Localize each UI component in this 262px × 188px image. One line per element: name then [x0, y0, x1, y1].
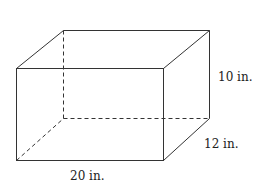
bottom-right-depth-edge: [164, 119, 210, 161]
top-right-depth-edge: [164, 31, 210, 69]
rectangular-prism-diagram: [0, 0, 262, 188]
depth-label: 12 in.: [204, 137, 238, 151]
length-label: 20 in.: [70, 169, 104, 183]
height-label: 10 in.: [218, 70, 252, 84]
top-left-depth-edge: [17, 31, 64, 69]
front-face: [17, 69, 164, 161]
hidden-depth-edge: [17, 119, 64, 161]
